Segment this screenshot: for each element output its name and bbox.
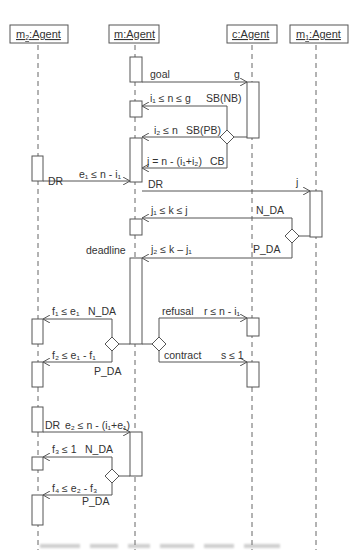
- message-n-da-f3: [43, 457, 112, 469]
- label-j-eq: j = n - (i₁+i₂): [146, 155, 202, 167]
- lifeline-header-m2: m2:Agent: [10, 25, 68, 43]
- activation-m1-1: [310, 191, 322, 237]
- lifeline-header-m1: m1:Agent: [290, 25, 348, 43]
- decision-diamond-c: [220, 130, 234, 144]
- label-s: s ≤ 1: [221, 349, 244, 361]
- label-j1: j₁ ≤ k ≤ j: [150, 204, 188, 216]
- decision-diamond-m-left: [105, 337, 119, 351]
- message-n-da-f1: [43, 319, 112, 337]
- activation-c-1: [247, 82, 259, 138]
- lifeline-header-m: m:Agent: [109, 25, 159, 43]
- activation-m2-6: [32, 495, 43, 525]
- label-j: j: [295, 176, 298, 188]
- label-dr-2: DR: [148, 178, 164, 190]
- activation-m2-1: [32, 156, 43, 181]
- label-f2: f₂ ≤ e₁ - f₁: [52, 349, 96, 361]
- label-p-da-1: P_DA: [253, 243, 280, 255]
- label-cb: CB: [210, 155, 225, 167]
- activation-m-2: [130, 101, 142, 117]
- label-j2: j₂ ≤ k – j₁: [150, 243, 192, 255]
- activation-m2-5: [32, 457, 43, 470]
- label-f4: f₄ ≤ e₂ - f₃: [52, 482, 97, 494]
- label-p-da-2: P_DA: [94, 365, 121, 377]
- label-sb-pb: SB(PB): [186, 124, 221, 136]
- label-refusal: refusal: [162, 305, 194, 317]
- figure-caption-blurred: [40, 536, 300, 544]
- activation-m-1: [130, 57, 142, 82]
- label-e2: e₂ ≤ n - (i₁+e₁): [65, 419, 130, 431]
- label-sb-nb: SB(NB): [206, 92, 242, 104]
- activation-m-3: [130, 138, 142, 182]
- label-e1: e₁ ≤ n - i₁: [79, 168, 121, 180]
- activation-c-2: [247, 318, 259, 336]
- label-i1: i₁ ≤ n ≤ g: [150, 92, 191, 104]
- decision-diamond-m-bottom: [105, 469, 119, 483]
- activation-m-4: [130, 219, 142, 235]
- sequence-diagram: m2:Agent m:Agent c:Agent m1:Agent: [0, 0, 355, 555]
- label-f1: f₁ ≤ e₁: [52, 305, 80, 317]
- message-n-da-j1: [142, 218, 292, 229]
- label-goal: goal: [150, 68, 170, 80]
- message-refusal: [159, 318, 247, 337]
- svg-text:m1:Agent: m1:Agent: [296, 28, 341, 41]
- label-deadline: deadline: [86, 244, 126, 256]
- activation-m-5: [130, 258, 142, 344]
- decision-diamond-m1: [285, 229, 299, 243]
- label-f3: f₃ ≤ 1: [52, 443, 77, 455]
- label-n-da-3: N_DA: [85, 443, 113, 455]
- label-p-da-3: P_DA: [82, 495, 109, 507]
- label-i2: i₂ ≤ n: [154, 124, 178, 136]
- label-n-da-1: N_DA: [256, 204, 284, 216]
- activation-m2-3: [32, 362, 43, 387]
- activation-m-6: [130, 432, 142, 476]
- svg-text:c:Agent: c:Agent: [232, 28, 269, 40]
- label-g: g: [234, 68, 240, 80]
- label-contract: contract: [164, 349, 201, 361]
- svg-text:m:Agent: m:Agent: [114, 28, 155, 40]
- svg-text:m2:Agent: m2:Agent: [16, 28, 61, 41]
- label-r: r ≤ n - i₁: [204, 305, 241, 317]
- lifeline-header-c: c:Agent: [227, 25, 277, 43]
- label-dr-1: DR: [48, 175, 64, 187]
- activation-c-3: [247, 362, 259, 387]
- activation-m2-2: [32, 319, 43, 344]
- label-dr-3: DR: [45, 419, 61, 431]
- activation-m2-4: [32, 407, 43, 432]
- label-n-da-2: N_DA: [88, 305, 116, 317]
